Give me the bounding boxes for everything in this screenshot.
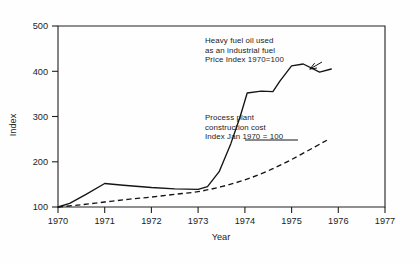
x-tick-label-1973: 1973 <box>188 216 208 226</box>
annotation-fuel-line-1: Heavy fuel oil used <box>205 36 284 46</box>
series-line-process-plant <box>58 64 331 207</box>
x-axis-ticks <box>58 207 385 213</box>
x-tick-label-1970: 1970 <box>48 216 68 226</box>
y-tick-label-200: 200 <box>33 157 48 167</box>
x-tick-label-1972: 1972 <box>141 216 161 226</box>
chart-figure: 100 200 300 400 500 1970 1971 1972 1973 … <box>0 0 420 265</box>
x-tick-label-1975: 1975 <box>281 216 301 226</box>
x-tick-labels: 1970 1971 1972 1973 1974 1975 1976 1977 <box>48 216 395 226</box>
x-tick-label-1977: 1977 <box>375 216 395 226</box>
annotation-plant-line-3: Index Jan 1970 = 100 <box>205 132 283 142</box>
series-line-heavy-fuel-oil <box>58 139 329 207</box>
annotation-fuel-line-3: Price Index 1970=100 <box>205 55 284 65</box>
annotation-heavy-fuel-oil: Heavy fuel oil used as an industrial fue… <box>205 36 284 65</box>
y-tick-label-300: 300 <box>33 112 48 122</box>
annotation-process-plant: Process plant construction cost Index Ja… <box>205 113 283 142</box>
x-tick-label-1976: 1976 <box>328 216 348 226</box>
annotation-plant-line-2: construction cost <box>205 123 283 133</box>
x-tick-label-1974: 1974 <box>235 216 255 226</box>
x-tick-label-1971: 1971 <box>94 216 114 226</box>
x-axis-title: Year <box>212 232 231 242</box>
y-tick-labels: 100 200 300 400 500 <box>33 21 48 212</box>
annotation-fuel-line-2: as an industrial fuel <box>205 46 284 56</box>
y-tick-label-400: 400 <box>33 67 48 77</box>
y-axis-ticks <box>52 26 58 207</box>
annotation-plant-line-1: Process plant <box>205 113 283 123</box>
y-tick-label-500: 500 <box>33 21 48 31</box>
y-axis-title: Index <box>8 113 18 136</box>
y-tick-label-100: 100 <box>33 202 48 212</box>
